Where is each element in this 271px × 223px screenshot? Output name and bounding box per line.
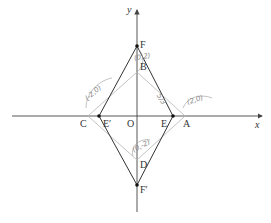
- label-E-prime: E′: [103, 119, 111, 129]
- label-F-prime: F′: [140, 185, 148, 195]
- rhombus-FEF'E': [99, 46, 173, 185]
- y-axis-label: y: [127, 5, 131, 15]
- point-E: [171, 114, 175, 118]
- coordinate-diagram: [0, 0, 271, 223]
- label-A: A: [183, 119, 190, 129]
- label-F: F: [140, 40, 146, 50]
- origin-label: O: [127, 119, 134, 129]
- point-F: [135, 44, 139, 48]
- point-F-prime: [135, 183, 139, 187]
- point-E-prime: [97, 114, 101, 118]
- label-C: C: [80, 119, 87, 129]
- label-B: B: [140, 62, 147, 72]
- x-axis-label: x: [255, 120, 259, 130]
- label-D: D: [140, 160, 147, 170]
- label-E: E: [161, 119, 167, 129]
